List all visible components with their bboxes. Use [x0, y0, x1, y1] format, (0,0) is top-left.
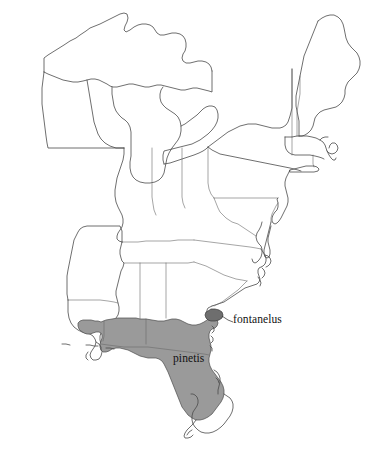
- pinetis-range-polygon: [78, 317, 224, 420]
- mississippi-river-west-boundary: [116, 242, 124, 318]
- arkansas-louisiana-border: [68, 300, 118, 303]
- massachusetts-cape-cod: [285, 136, 338, 160]
- new-jersey-delaware-coast: [272, 170, 290, 224]
- ohio-pennsylvania-border: [208, 147, 214, 198]
- long-island: [290, 166, 319, 172]
- chesapeake-bay-west-shore: [252, 222, 262, 263]
- distribution-map-figure: fontanelus pinetis: [0, 0, 379, 464]
- northeast-region: [208, 15, 360, 172]
- chesapeake-bay-delmarva: [264, 222, 271, 258]
- new-york-outline: [208, 69, 292, 147]
- kentucky-tennessee-border: [122, 240, 194, 242]
- florida-keys: [184, 420, 196, 438]
- illinois-outline: [115, 148, 124, 242]
- lake-superior-south-shore: [44, 71, 212, 92]
- fontanelus-leader-line: [222, 316, 233, 322]
- south-carolina-georgia-border: [214, 281, 247, 306]
- west-virginia-virginia-border: [214, 198, 256, 236]
- north-carolina-south-carolina-border: [194, 262, 247, 281]
- wisconsin-outline: [42, 72, 124, 148]
- tennessee-south-border: [124, 262, 194, 263]
- maine-outline: [299, 15, 360, 136]
- label-pinetis: pinetis: [173, 352, 204, 364]
- range-shading-pinetis: [78, 317, 224, 420]
- fontanelus-marker-group: [205, 309, 233, 322]
- ohio-indiana-border: [182, 148, 185, 208]
- michigan-lower-peninsula: [112, 87, 181, 183]
- lake-huron-erie-shoreline: [163, 106, 218, 164]
- map-svg: [0, 0, 379, 464]
- mid-atlantic-region: [115, 147, 290, 318]
- fontanelus-population-blob: [205, 309, 223, 321]
- virginia-north-carolina-border: [194, 240, 261, 249]
- label-fontanelus: fontanelus: [233, 313, 282, 325]
- wisconsin-minnesota-outline: [44, 13, 212, 72]
- outer-banks: [258, 255, 271, 286]
- massachusetts-south-border: [285, 137, 324, 159]
- arkansas-west-boundary: [67, 226, 122, 300]
- great-lakes-region: [42, 13, 218, 183]
- connecticut-rhode-island-border: [313, 155, 314, 167]
